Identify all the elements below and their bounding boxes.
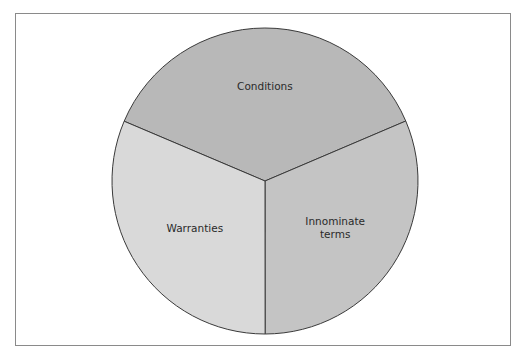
- pie-label-warranties: Warranties: [166, 222, 223, 234]
- pie-chart: ConditionsInnominatetermsWarranties: [0, 0, 527, 359]
- pie-label-conditions: Conditions: [237, 80, 293, 92]
